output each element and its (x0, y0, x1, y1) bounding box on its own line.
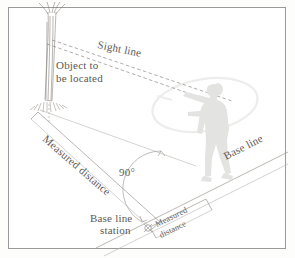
label-angle: 90° (119, 166, 135, 178)
label-measured-distance-main: Measured distance (41, 132, 113, 197)
label-station-line2: station (100, 224, 131, 236)
grass-tufts (30, 102, 67, 112)
label-base-line: Base line (221, 132, 264, 162)
label-sight-line: Sight line (97, 38, 143, 59)
label-station-line1: Base line (90, 212, 132, 224)
measured-distance-band-upper (38, 112, 160, 222)
label-object-line2: be located (56, 72, 103, 84)
label-object-line1: Object to (56, 59, 99, 71)
survey-diagram-figure: Sight line Object to be located Measured… (0, 0, 295, 258)
diagram-canvas: Sight line Object to be located Measured… (0, 0, 295, 258)
